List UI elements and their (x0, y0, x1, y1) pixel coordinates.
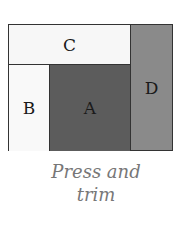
region-c: C (9, 25, 130, 65)
caption-line-2: trim (0, 183, 192, 206)
caption-line-1: Press and (0, 160, 192, 183)
region-b: B (9, 65, 50, 151)
region-a: A (50, 65, 130, 151)
region-d: D (130, 25, 172, 150)
panel-diagram: C B A D (8, 24, 173, 151)
caption: Press and trim (0, 160, 192, 206)
